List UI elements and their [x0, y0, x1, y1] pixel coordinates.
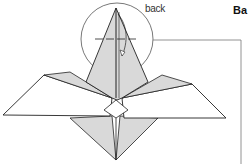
center-point — [86, 8, 148, 100]
origami-fold-drawing — [0, 0, 249, 164]
origami-diagram: back Ba — [0, 0, 249, 164]
section-heading: Ba — [233, 4, 247, 16]
lower-right-flap — [116, 116, 158, 160]
lower-left-flap — [70, 116, 116, 160]
back-annotation: back — [145, 3, 165, 14]
